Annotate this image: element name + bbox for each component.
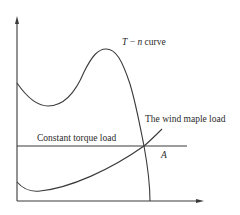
tn-curve-label: T − n curve: [122, 37, 166, 47]
wind-load-label: The wind maple load: [145, 114, 226, 124]
x-axis-arrow-icon: [196, 199, 204, 203]
torque-speed-diagram: T − n curve The wind maple load Constant…: [0, 0, 240, 215]
y-axis-arrow-icon: [15, 16, 19, 24]
tn-curve: [17, 49, 150, 201]
intersection-point-label: A: [160, 150, 167, 160]
constant-torque-label: Constant torque load: [37, 133, 116, 143]
